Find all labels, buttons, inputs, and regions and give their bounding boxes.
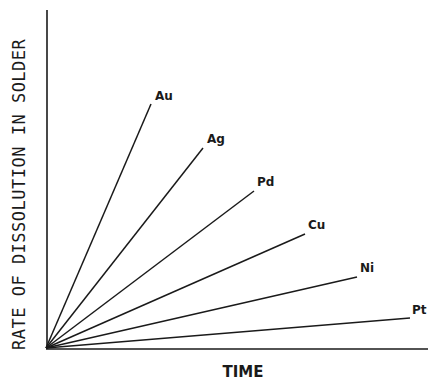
- series-lines: AuAgPdCuNiPt: [46, 89, 427, 348]
- x-axis-label: TIME: [223, 363, 264, 381]
- dissolution-rate-chart: AuAgPdCuNiPt RATE OF DISSOLUTION IN SOLD…: [0, 0, 436, 389]
- series-label-ni: Ni: [360, 261, 374, 275]
- series-label-ag: Ag: [207, 132, 225, 146]
- series-line-pt: [46, 318, 410, 348]
- series-label-au: Au: [155, 89, 173, 103]
- series-label-cu: Cu: [308, 218, 325, 232]
- y-axis-label: RATE OF DISSOLUTION IN SOLDER: [9, 38, 29, 350]
- series-line-au: [46, 104, 151, 348]
- series-label-pt: Pt: [412, 303, 427, 317]
- series-label-pd: Pd: [257, 175, 274, 189]
